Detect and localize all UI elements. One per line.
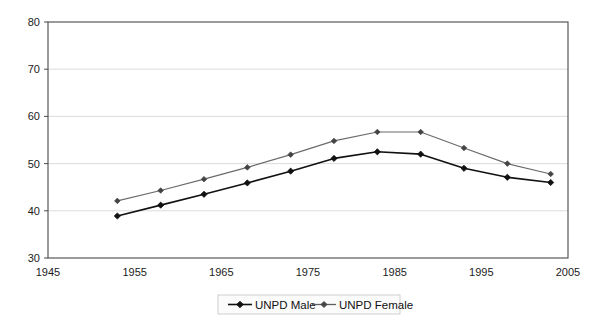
x-tick-label-1975: 1975 — [296, 266, 320, 278]
y-tick-label-30: 30 — [28, 252, 40, 264]
x-tick-label-2005: 2005 — [556, 266, 580, 278]
legend: UNPD Male UNPD Female — [218, 295, 413, 314]
chart-canvas: 304050607080 194519551965197519851995200… — [0, 0, 608, 331]
y-tick-label-80: 80 — [28, 16, 40, 28]
y-tick-label-70: 70 — [28, 63, 40, 75]
x-tick-label-1945: 1945 — [36, 266, 60, 278]
x-tick-label-1965: 1965 — [209, 266, 233, 278]
x-tick-label-1985: 1985 — [382, 266, 406, 278]
line-chart: 304050607080 194519551965197519851995200… — [0, 0, 608, 331]
x-tick-label-1955: 1955 — [122, 266, 146, 278]
y-tick-label-50: 50 — [28, 158, 40, 170]
x-tick-label-1995: 1995 — [469, 266, 493, 278]
y-tick-label-40: 40 — [28, 205, 40, 217]
legend-label-unpd-male: UNPD Male — [255, 299, 316, 311]
y-tick-label-60: 60 — [28, 110, 40, 122]
legend-label-unpd-female: UNPD Female — [339, 299, 413, 311]
